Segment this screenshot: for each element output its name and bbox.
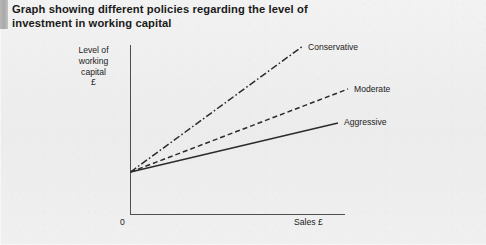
series-line-aggressive <box>131 123 339 172</box>
figure-canvas: Graph showing different policies regardi… <box>0 0 486 245</box>
axis-origin-label: 0 <box>120 217 125 227</box>
chart-svg <box>0 0 486 245</box>
x-axis-title: Sales £ <box>294 217 323 227</box>
chart-plot-area <box>0 0 486 245</box>
legend-label-moderate: Moderate <box>354 84 390 94</box>
y-axis-title: Level of working capital £ <box>62 45 125 88</box>
series-line-moderate <box>131 89 349 172</box>
legend-label-aggressive: Aggressive <box>344 117 387 127</box>
legend-label-conservative: Conservative <box>308 42 358 52</box>
series-line-conservative <box>131 46 304 172</box>
